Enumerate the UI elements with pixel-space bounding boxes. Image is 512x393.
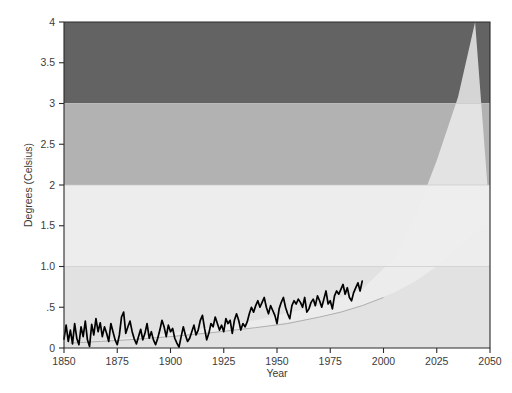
x-tick-label-1875: 1875 — [106, 355, 130, 367]
x-tick-label-1975: 1975 — [319, 355, 343, 367]
y-tick-label-2: 2 — [49, 179, 55, 191]
x-tick-label-1850: 1850 — [52, 355, 76, 367]
y-tick-label-2.5: 2.5 — [40, 138, 55, 150]
x-tick-label-2050: 2050 — [478, 355, 502, 367]
y-tick-label-3: 3 — [49, 97, 55, 109]
x-tick-label-2025: 2025 — [425, 355, 449, 367]
y-tick-label-0: 0 — [49, 342, 55, 354]
y-tick-label-4: 4 — [49, 16, 55, 28]
x-axis-title: Year — [266, 367, 288, 379]
band-0-1 — [64, 267, 490, 349]
y-tick-label-3.5: 3.5 — [40, 56, 55, 68]
band-2-3 — [64, 104, 490, 186]
y-axis-title: Degrees (Celsius) — [22, 143, 34, 227]
y-tick-label-.5: .5 — [46, 301, 55, 313]
chart-figure: 185018751900192519501975200020252050 0.5… — [0, 0, 512, 393]
y-tick-label-1.5: 1.5 — [40, 219, 55, 231]
climate-projection-chart: 185018751900192519501975200020252050 0.5… — [0, 0, 512, 393]
x-tick-label-1900: 1900 — [159, 355, 183, 367]
x-tick-label-1950: 1950 — [265, 355, 289, 367]
band-3-4 — [64, 22, 490, 104]
x-tick-label-2000: 2000 — [372, 355, 396, 367]
x-tick-label-1925: 1925 — [212, 355, 236, 367]
y-tick-label-1.0: 1.0 — [40, 260, 55, 272]
